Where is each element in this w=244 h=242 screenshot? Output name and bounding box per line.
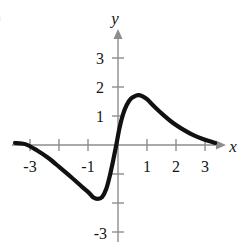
y-axis-arrow-icon	[114, 29, 123, 39]
function-curve	[15, 95, 215, 199]
y-axis-label: y	[109, 9, 119, 28]
x-tick-label-3: 3	[201, 158, 209, 175]
figure-part-label: )	[0, 6, 1, 29]
y-tick-label-neg3: -3	[94, 225, 107, 242]
x-axis-arrow-icon	[216, 141, 226, 150]
y-tick-label-1: 1	[96, 108, 104, 125]
graph-figure: ) -3 -1 1 2 3 3 2 1 -3 y x	[0, 0, 244, 242]
y-tick-label-2: 2	[96, 79, 104, 96]
x-tick-label-2: 2	[172, 158, 180, 175]
x-tick-label-1: 1	[143, 158, 151, 175]
x-axis-label: x	[228, 137, 237, 156]
x-tick-label-neg1: -1	[81, 158, 94, 175]
x-tick-label-neg3: -3	[23, 158, 36, 175]
coordinate-plot: -3 -1 1 2 3 3 2 1 -3 y x	[0, 0, 244, 242]
y-tick-label-3: 3	[96, 50, 104, 67]
